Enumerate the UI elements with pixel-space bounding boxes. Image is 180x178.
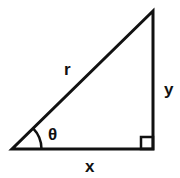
right-triangle-diagram: r y θ x xyxy=(0,0,180,178)
angle-label: θ xyxy=(48,125,57,144)
triangle-outline xyxy=(12,11,153,149)
opposite-label: y xyxy=(164,80,174,99)
right-angle-marker xyxy=(141,137,153,149)
hypotenuse-label: r xyxy=(64,60,71,79)
angle-arc xyxy=(33,128,41,149)
adjacent-label: x xyxy=(85,157,95,176)
